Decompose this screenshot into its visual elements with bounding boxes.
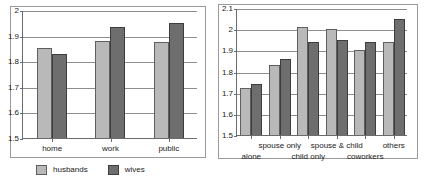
bar-group [266, 9, 295, 135]
y-axis-label: 2.1 [222, 5, 233, 13]
bar-wives [169, 23, 184, 138]
legend-left: husbands wives [36, 165, 145, 175]
x-axis-label: home [42, 145, 62, 153]
bar-group [140, 11, 198, 138]
y-axis-label: 1.7 [8, 84, 19, 92]
legend-item-wives: wives [108, 165, 145, 175]
y-axis-tick [234, 136, 237, 137]
bar-husbands [154, 42, 169, 138]
bar-group [237, 9, 266, 135]
chart-figure: 1.51.61.71.81.92homeworkpublic husbands … [0, 0, 425, 187]
x-axis-tick [308, 135, 309, 139]
y-axis-label: 1.6 [8, 109, 19, 117]
bar-group [351, 9, 380, 135]
x-axis-label: child only [292, 153, 325, 161]
y-axis-label: 1.5 [8, 135, 19, 143]
legend-label-husbands: husbands [53, 166, 88, 174]
x-axis-tick [365, 135, 366, 139]
plot-area-right: 1.51.61.71.81.922.1alonespouse onlychild… [236, 9, 407, 136]
bar-group [294, 9, 323, 135]
bar-wives [365, 42, 376, 135]
y-axis-label: 1.8 [222, 69, 233, 77]
y-axis-label: 1.6 [222, 111, 233, 119]
x-axis-tick [280, 135, 281, 139]
x-axis-label: coworkers [347, 153, 383, 161]
y-axis-label: 2 [15, 7, 19, 15]
bar-husbands [95, 41, 110, 138]
y-axis-label: 1.5 [222, 132, 233, 140]
legend-swatch-husbands-icon [36, 165, 47, 175]
y-axis-label: 1.9 [8, 33, 19, 41]
bar-husbands [269, 65, 280, 135]
bar-wives [308, 42, 319, 135]
bar-group [380, 9, 409, 135]
x-axis-tick [394, 135, 395, 139]
x-axis-tick [251, 135, 252, 139]
chart-panel-left: 1.51.61.71.81.92homeworkpublic husbands … [0, 0, 212, 187]
bar-wives [280, 59, 291, 135]
bar-wives [110, 27, 125, 138]
bar-husbands [354, 50, 365, 135]
bar-husbands [326, 29, 337, 135]
x-axis-tick [169, 138, 170, 142]
x-axis-label: work [102, 145, 119, 153]
bar-group [323, 9, 352, 135]
x-axis-label: spouse & child [311, 142, 363, 150]
bar-group [23, 11, 81, 138]
chart-panel-right: 1.51.61.71.81.922.1alonespouse onlychild… [212, 0, 425, 187]
bar-wives [251, 84, 262, 135]
bar-group [81, 11, 139, 138]
x-axis-tick [52, 138, 53, 142]
x-axis-tick [111, 138, 112, 142]
x-axis-label: public [158, 145, 179, 153]
bar-wives [52, 54, 67, 138]
x-axis-label: others [383, 142, 405, 150]
bar-husbands [383, 42, 394, 135]
y-axis-label: 1.7 [222, 90, 233, 98]
x-axis-label: spouse only [258, 142, 301, 150]
y-axis-label: 2 [229, 26, 233, 34]
bar-husbands [37, 48, 52, 138]
legend-label-wives: wives [125, 166, 145, 174]
y-axis-label: 1.8 [8, 58, 19, 66]
y-axis-label: 1.9 [222, 47, 233, 55]
y-axis-tick [20, 139, 23, 140]
plot-area-left: 1.51.61.71.81.92homeworkpublic [22, 11, 197, 139]
bar-husbands [297, 27, 308, 135]
x-axis-label: alone [241, 153, 261, 161]
bar-wives [394, 19, 405, 135]
bar-wives [337, 40, 348, 135]
legend-swatch-wives-icon [108, 165, 119, 175]
bar-husbands [240, 88, 251, 135]
x-axis-tick [337, 135, 338, 139]
legend-item-husbands: husbands [36, 165, 88, 175]
